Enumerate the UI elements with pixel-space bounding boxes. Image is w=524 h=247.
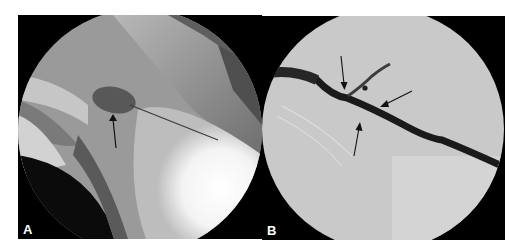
panel-label-b: B bbox=[267, 224, 276, 237]
panel-label-a: A bbox=[23, 223, 32, 236]
panel-b: B bbox=[262, 16, 505, 240]
panel-a: A bbox=[18, 15, 262, 239]
fluoroscopy-image-a bbox=[18, 15, 262, 239]
angiography-image-b bbox=[262, 16, 505, 240]
